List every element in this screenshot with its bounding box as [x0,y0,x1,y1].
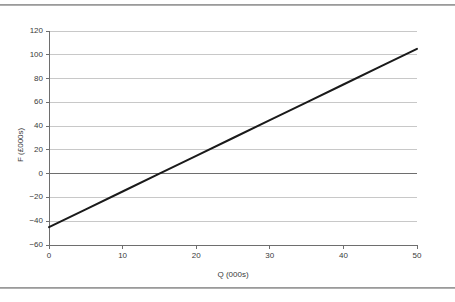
chart-page: 120100806040200−20−40−60 01020304050 F (… [0,0,455,302]
x-tick-label: 40 [339,252,348,260]
y-tick-label: 120 [0,27,43,35]
x-axis-title: Q (000s) [217,270,248,279]
y-tick-label: −40 [0,217,43,225]
x-tick-label: 20 [192,252,201,260]
series-line [49,49,417,227]
x-tick-label: 30 [265,252,274,260]
y-tick-label: 100 [0,51,43,59]
y-tick-label: 60 [0,98,43,106]
y-tick-label: 0 [0,170,43,178]
chart-plot-svg [0,0,455,302]
y-axis-title: F (£000s) [16,128,25,162]
y-tick-label: 80 [0,75,43,83]
x-tick-label: 0 [47,252,51,260]
gridlines [49,31,417,221]
x-tick-label: 10 [118,252,127,260]
data-series [49,49,417,227]
x-tick-label: 50 [413,252,422,260]
y-tick-label: −60 [0,241,43,249]
y-tick-label: −20 [0,193,43,201]
line-chart: 120100806040200−20−40−60 01020304050 F (… [0,0,455,302]
